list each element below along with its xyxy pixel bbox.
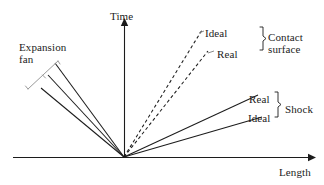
real-contact-surface-label: Real	[217, 48, 238, 60]
expansion-fan-bracket	[26, 61, 61, 89]
wave-diagram: Time Length Expansion fan Ideal Real Con…	[0, 0, 324, 185]
x-axis-arrowhead	[308, 154, 316, 161]
y-axis-label: Time	[110, 10, 133, 22]
contact-surface-bracket	[260, 27, 266, 50]
real-contact-leader	[208, 51, 214, 53]
expansion-fan-group	[41, 63, 124, 157]
expansion-fan-line-2	[48, 75, 124, 157]
real-contact-surface-line	[124, 51, 208, 157]
expansion-fan-line-1	[55, 63, 124, 157]
shock-group	[124, 95, 262, 157]
ideal-shock-line	[124, 117, 262, 157]
real-shock-label: Real	[249, 93, 270, 105]
ideal-shock-label: Ideal	[248, 112, 270, 124]
shock-label: Shock	[285, 103, 313, 115]
shock-bracket	[275, 92, 281, 117]
expansion-fan-label: Expansion fan	[19, 41, 79, 65]
contact-surface-label: Contact surface	[268, 31, 322, 55]
ideal-contact-surface-label: Ideal	[205, 27, 227, 39]
diagram-canvas	[0, 0, 324, 185]
x-axis-label: Length	[279, 166, 311, 178]
expansion-fan-line-3	[41, 88, 124, 157]
real-shock-line	[124, 95, 258, 157]
